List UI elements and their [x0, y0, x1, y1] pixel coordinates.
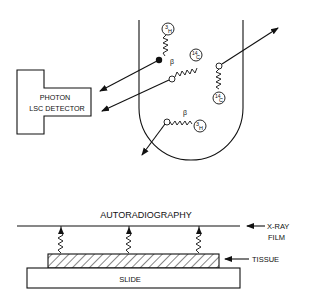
escaping-photon-arrow: [222, 28, 278, 64]
film-label-line1: X-RAY: [267, 222, 289, 231]
lsc-detector-box: [17, 70, 91, 134]
beta-label: β: [170, 58, 174, 66]
tissue-label: TISSUE: [252, 255, 279, 264]
beta-zigzag: [175, 68, 197, 77]
scintillator-open-circle-icon: [169, 76, 175, 82]
detector-label-line1: PHOTON: [40, 93, 71, 102]
photon-arrow: [100, 61, 157, 91]
scintillation-vial-panel: PHOTON LSC DETECTOR 3 H 14 C β: [17, 20, 278, 160]
isotope-3h-symbol: H: [199, 125, 203, 131]
isotope-14c-symbol: C: [196, 54, 200, 60]
beta-zigzag: [216, 69, 221, 89]
emitter-14c-beta: 14 C β: [102, 49, 202, 111]
detector-label-line2: LSC DETECTOR: [29, 104, 84, 113]
autoradiography-panel: AUTORADIOGRAPHY X-RAY FILM TISSUE SLIDE: [17, 210, 289, 288]
decay-zigzag: [163, 35, 168, 56]
emitter-3h-photon: 3 H: [100, 23, 174, 91]
emission-arrow: [58, 226, 64, 253]
isotope-3h-symbol: H: [168, 28, 172, 34]
scintillator-filled-dot-icon: [156, 57, 162, 63]
emission-arrow: [126, 226, 132, 253]
tissue-section: [48, 254, 219, 268]
slide-label: SLIDE: [119, 275, 141, 284]
vial-outline: [139, 20, 243, 160]
emitter-3h-beta: β 3 H: [142, 109, 206, 155]
diagram-canvas: PHOTON LSC DETECTOR 3 H 14 C β: [0, 0, 310, 300]
film-label-line2: FILM: [268, 233, 285, 242]
scintillator-open-circle-icon: [216, 63, 222, 69]
isotope-14c-symbol: C: [219, 97, 223, 103]
emission-arrow: [196, 226, 202, 253]
beta-zigzag: [170, 121, 192, 125]
autoradiography-title: AUTORADIOGRAPHY: [100, 210, 191, 220]
emitter-14c-escape: 14 C: [213, 28, 278, 104]
beta-label: β: [183, 109, 187, 117]
